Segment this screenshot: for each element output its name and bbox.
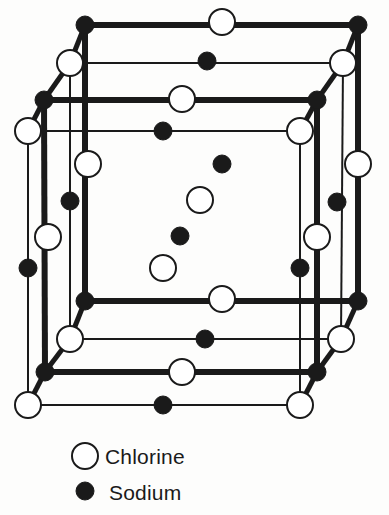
- lattice-diagram: ChlorineSodium: [0, 0, 389, 515]
- atom-chlorine: [287, 118, 313, 144]
- atom-chlorine: [57, 326, 83, 352]
- atom-sodium: [291, 259, 309, 277]
- legend-marker-sodium: [76, 482, 94, 500]
- atom-chlorine: [169, 359, 195, 385]
- atom-chlorine: [330, 50, 356, 76]
- atom-chlorine: [328, 326, 354, 352]
- atom-sodium: [349, 292, 367, 310]
- atom-sodium: [35, 91, 53, 109]
- atom-sodium: [76, 292, 94, 310]
- atom-sodium: [213, 155, 231, 173]
- atom-sodium: [328, 193, 346, 211]
- atom-sodium: [154, 396, 172, 414]
- atom-chlorine: [15, 392, 41, 418]
- atom-chlorine: [150, 255, 176, 281]
- legend-marker-chlorine: [72, 443, 98, 469]
- atom-sodium: [198, 52, 216, 70]
- atom-chlorine: [75, 151, 101, 177]
- atom-chlorine: [209, 286, 235, 312]
- atom-chlorine: [169, 86, 195, 112]
- nacl-lattice-figure: ChlorineSodium: [0, 0, 389, 515]
- legend-label-chlorine: Chlorine: [105, 445, 185, 468]
- atom-chlorine: [345, 151, 371, 177]
- legend-label-sodium: Sodium: [109, 481, 181, 504]
- atom-sodium: [349, 16, 367, 34]
- atom-sodium: [36, 363, 54, 381]
- atom-sodium: [76, 16, 94, 34]
- atom-chlorine: [287, 392, 313, 418]
- atom-sodium: [308, 363, 326, 381]
- atom-chlorine: [187, 187, 213, 213]
- atom-chlorine: [35, 224, 61, 250]
- atom-sodium: [171, 227, 189, 245]
- atom-chlorine: [209, 9, 235, 35]
- atom-sodium: [196, 330, 214, 348]
- atom-sodium: [154, 122, 172, 140]
- atom-chlorine: [15, 118, 41, 144]
- atom-sodium: [19, 259, 37, 277]
- atom-sodium: [308, 91, 326, 109]
- atom-chlorine: [304, 224, 330, 250]
- atom-sodium: [61, 192, 79, 210]
- atom-chlorine: [57, 50, 83, 76]
